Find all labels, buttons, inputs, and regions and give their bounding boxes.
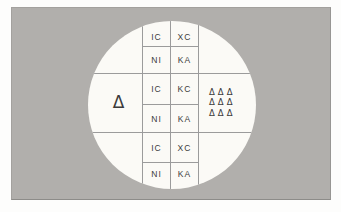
cell-bottom-band-row1-right: XC: [171, 133, 198, 162]
cell-top-band-row1-right: XC: [171, 21, 198, 46]
right-symbol-cell: ΔΔΔ ΔΔΔ ΔΔΔ: [199, 73, 256, 132]
cell-middle-band-row1-left: IC: [143, 74, 170, 104]
cell-bottom-band-row1-left: IC: [143, 133, 170, 162]
cell-bottom-band-row2-left: NI: [143, 163, 170, 189]
cell-middle-band-row2-right: KA: [171, 105, 198, 132]
small-triangles-row-1: ΔΔΔ: [209, 87, 256, 98]
small-triangles-row-2: ΔΔΔ: [209, 97, 256, 108]
figure-canvas: IC XC NI KA IC KC NI KA IC XC NI KA Δ ΔΔ…: [0, 0, 341, 212]
small-triangles-row-3: ΔΔΔ: [209, 108, 256, 119]
left-symbol-cell: Δ: [88, 73, 142, 132]
gray-panel: IC XC NI KA IC KC NI KA IC XC NI KA Δ ΔΔ…: [11, 7, 331, 200]
cell-top-band-row1-left: IC: [143, 21, 170, 46]
cell-middle-band-row2-left: NI: [143, 105, 170, 132]
cell-middle-band-row1-right: KC: [171, 74, 198, 104]
cell-top-band-row2-left: NI: [143, 47, 170, 73]
circle-grid: IC XC NI KA IC KC NI KA IC XC NI KA Δ ΔΔ…: [88, 21, 256, 189]
cell-bottom-band-row2-right: KA: [171, 163, 198, 189]
large-triangle-icon: Δ: [113, 94, 125, 111]
cell-top-band-row2-right: KA: [171, 47, 198, 73]
